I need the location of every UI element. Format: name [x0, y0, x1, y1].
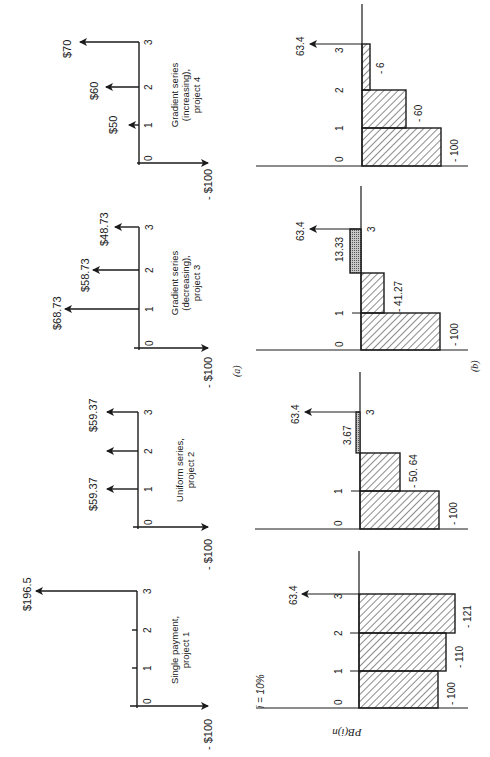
- balance-label-1: - 100: [449, 323, 460, 346]
- outflow-label: - $100: [202, 169, 214, 200]
- inflow-label-3: $59.37: [87, 398, 99, 432]
- diagram-title-line-2: (decreasing),: [180, 255, 191, 310]
- tick-0: 0: [142, 698, 153, 704]
- diagram-title-line-1: Single payment,: [169, 616, 180, 684]
- tick-0: 0: [333, 699, 344, 705]
- final-balance-label: 63.4: [295, 36, 306, 56]
- tick-0: 0: [334, 341, 345, 347]
- balance-label-3: 13.33: [334, 237, 345, 262]
- cash-flow-diagram-project-1: 0 1 2 3 $196.5 - $100 Single payment, pr…: [21, 577, 214, 750]
- balance-bar-period-1: [362, 128, 441, 166]
- balance-bar-period-2: [361, 273, 384, 313]
- interest-rate-label: i = 10%: [255, 674, 266, 708]
- balance-bar-period-3: [362, 44, 370, 90]
- final-balance-label: 63.4: [295, 221, 306, 241]
- balance-diagram-project-2: 0 1 3 - 100 - 50. 64 3.67 63.4: [255, 372, 468, 529]
- diagram-title-line-2: project 1: [180, 632, 191, 668]
- inflow-label-1: $50: [107, 116, 119, 134]
- tick-0: 0: [143, 519, 154, 525]
- balance-bar-period-2: [360, 453, 400, 491]
- outflow-label: - $100: [202, 539, 214, 570]
- diagram-title-line-2: (increasing),: [180, 69, 191, 121]
- tick-2: 2: [334, 87, 345, 93]
- balance-label-1: - 100: [446, 682, 457, 705]
- tick-1: 1: [333, 668, 344, 674]
- tick-1: 1: [334, 310, 345, 316]
- part-a-label: (a): [231, 365, 243, 377]
- tick-1: 1: [144, 306, 155, 312]
- balance-label-3: - 6: [375, 62, 386, 74]
- tick-2: 2: [144, 267, 155, 273]
- inflow-label-3: $196.5: [21, 577, 33, 611]
- tick-3: 3: [365, 409, 376, 415]
- tick-2: 2: [143, 448, 154, 454]
- tick-3: 3: [334, 47, 345, 53]
- diagram-title-line-3: project 3: [191, 265, 202, 301]
- cash-flow-figure: 0 1 2 3 $50 $60 $70 - $100 Gradient seri…: [0, 0, 490, 757]
- tick-3: 3: [333, 593, 344, 599]
- tick-1: 1: [142, 665, 153, 671]
- balance-label-2: - 60: [413, 104, 424, 122]
- diagram-title-line-1: Gradient series: [169, 251, 180, 316]
- tick-3: 3: [366, 226, 377, 232]
- balance-bar-period-1: [359, 671, 438, 708]
- y-axis-label: PB(i)n: [332, 726, 363, 739]
- balance-bar-period-3-positive: [350, 229, 361, 273]
- inflow-label-2: $60: [88, 82, 100, 100]
- balance-bar-period-2: [359, 633, 446, 671]
- inflow-label-1: $59.37: [87, 477, 99, 511]
- tick-2: 2: [142, 627, 153, 633]
- balance-bar-period-3-positive: [356, 412, 360, 453]
- cash-flow-diagram-project-3: 0 1 2 3 $68.73 $58.73 $48.73 - $100 Grad…: [51, 212, 243, 388]
- diagram-title-line-1: Gradient series: [169, 63, 180, 128]
- inflow-label-3: $70: [61, 40, 73, 58]
- balance-bar-period-2: [362, 90, 406, 128]
- tick-0: 0: [143, 155, 154, 161]
- inflow-label-2: $58.73: [79, 258, 91, 292]
- tick-3: 3: [144, 224, 155, 230]
- tick-1: 1: [143, 486, 154, 492]
- balance-label-1: - 100: [448, 502, 459, 525]
- final-balance-label: 63.4: [288, 585, 299, 605]
- balance-diagram-project-3: 0 1 3 - 100 - 41.27 13.33 63.4 (b): [256, 186, 481, 372]
- tick-2: 2: [143, 84, 154, 90]
- outflow-label: - $100: [202, 357, 214, 388]
- tick-0: 0: [334, 156, 345, 162]
- tick-0: 0: [144, 340, 155, 346]
- inflow-label-1: $68.73: [51, 296, 63, 330]
- tick-3: 3: [142, 588, 153, 594]
- tick-2: 2: [333, 630, 344, 636]
- balance-bar-period-1: [361, 313, 440, 350]
- inflow-label-3: $48.73: [98, 212, 110, 246]
- balance-label-3: - 121: [462, 605, 473, 628]
- balance-bar-period-1: [360, 491, 439, 529]
- tick-3: 3: [143, 409, 154, 415]
- final-balance-label: 63.4: [290, 404, 301, 424]
- tick-0: 0: [333, 520, 344, 526]
- cash-flow-diagram-project-4: 0 1 2 3 $50 $60 $70 - $100 Gradient seri…: [61, 39, 214, 200]
- diagram-title-line-1: Uniform series,: [174, 438, 185, 502]
- cash-flow-diagram-project-2: 0 1 2 3 $59.37 $59.37 - $100 Uniform ser…: [87, 398, 214, 570]
- balance-label-2: - 50. 64: [408, 454, 419, 488]
- balance-diagram-project-4: 0 1 2 3 - 100 - 60 - 6 63.4: [256, 4, 468, 166]
- diagram-title-line-3: project 4: [191, 77, 202, 113]
- balance-label-1: - 100: [449, 139, 460, 162]
- tick-1: 1: [334, 125, 345, 131]
- tick-1: 1: [143, 122, 154, 128]
- tick-3: 3: [143, 39, 154, 45]
- balance-diagram-project-1: 0 1 2 3 - 100 - 110 - 121 63.4 i = 10% P…: [255, 551, 473, 739]
- part-b-label: (b): [469, 360, 481, 372]
- diagram-title-line-2: project 2: [185, 452, 196, 488]
- balance-label-2: - 110: [454, 646, 465, 668]
- balance-label-3: 3.67: [342, 425, 353, 445]
- balance-label-2: - 41.27: [393, 280, 404, 312]
- outflow-label: - $100: [202, 719, 214, 750]
- tick-1: 1: [333, 488, 344, 494]
- balance-bar-period-3: [359, 594, 455, 633]
